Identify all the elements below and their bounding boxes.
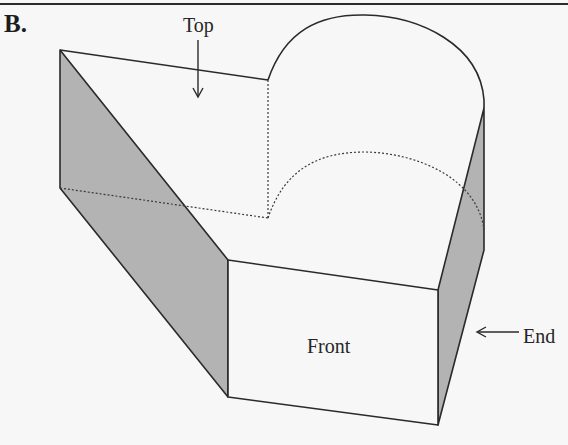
back-top-edge — [60, 50, 268, 80]
top-arc — [268, 15, 484, 108]
top-label: Top — [183, 14, 214, 37]
right-shaded-face — [438, 108, 484, 425]
hidden-bottom-arc — [268, 152, 484, 230]
front-label: Front — [307, 335, 350, 358]
left-shaded-face — [60, 50, 228, 397]
end-label: End — [523, 325, 555, 348]
isometric-drawing — [0, 0, 568, 445]
